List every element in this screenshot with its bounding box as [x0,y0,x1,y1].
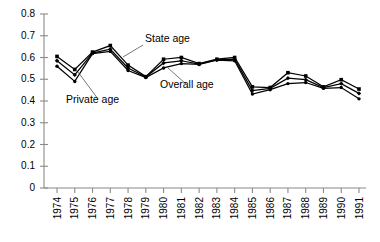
y-tick-label: 0.3 [21,117,35,128]
x-tick-label: 1979 [140,197,151,220]
y-axis [40,14,48,188]
annotation-label: State age [145,32,190,44]
data-point-marker [55,55,59,59]
x-tick-labels: 1974197519761977197819791980198119821983… [52,197,365,220]
x-tick-label: 1989 [318,197,329,220]
data-point-marker [357,87,361,91]
data-point-marker [144,76,147,79]
annotation-leader-line [123,45,143,57]
y-tick-label: 0.4 [21,95,35,106]
data-point-marker [286,71,290,75]
x-tick-label: 1980 [158,197,169,220]
data-point-marker [73,80,76,83]
data-point-marker [162,57,166,61]
x-axis [44,188,366,193]
y-tick-label: 0.7 [21,30,35,41]
annotation-label: Private age [66,93,119,105]
data-point-marker [304,74,308,78]
data-point-marker [251,92,254,95]
x-tick-label: 1974 [52,197,63,220]
y-tick-label: 0.1 [21,160,35,171]
y-tick-label: 0.6 [21,52,35,63]
x-tick-label: 1978 [123,197,134,220]
data-point-marker [322,87,325,90]
x-tick-label: 1975 [69,197,80,220]
line-chart: 00.10.20.30.40.50.60.70.8 19741975197619… [0,0,380,242]
x-tick-label: 1977 [105,197,116,220]
y-tick-labels: 00.10.20.30.40.50.60.70.8 [21,8,35,193]
data-point-marker [304,81,307,84]
data-series-group [57,46,359,99]
data-point-marker [340,86,343,89]
data-point-marker [251,85,255,89]
x-tick-label: 1987 [282,197,293,220]
x-tick-label: 1984 [229,197,240,220]
data-point-marker [357,97,360,100]
data-point-marker [180,62,183,65]
series-line [57,51,359,98]
y-tick-label: 0.8 [21,8,35,19]
x-tick-label: 1981 [176,197,187,220]
y-tick-label: 0.2 [21,139,35,150]
series-annotations: State agePrivate ageOverall age [66,32,214,105]
data-point-marker [215,58,218,61]
data-point-marker [109,50,112,53]
data-point-marker [162,66,165,69]
annotation-label: Overall age [160,78,214,90]
data-point-marker [73,68,77,72]
y-tick-label: 0 [29,182,35,193]
data-point-marker [233,59,236,62]
data-point-marker [55,65,58,68]
x-tick-label: 1990 [336,197,347,220]
y-tick-label: 0.5 [21,73,35,84]
x-tick-label: 1982 [194,197,205,220]
data-point-marker [108,44,112,48]
x-tick-label: 1991 [354,197,365,220]
x-tick-label: 1986 [265,197,276,220]
x-tick-label: 1976 [87,197,98,220]
data-point-marker [197,63,200,66]
data-point-marker [339,78,343,82]
x-tick-label: 1985 [247,197,258,220]
data-point-marker [91,52,94,55]
data-point-marker [126,69,129,72]
data-point-marker [268,88,271,91]
data-point-marker [286,82,289,85]
chart-container: 00.10.20.30.40.50.60.70.8 19741975197619… [0,0,380,242]
x-tick-label: 1988 [300,197,311,220]
x-tick-label: 1983 [211,197,222,220]
